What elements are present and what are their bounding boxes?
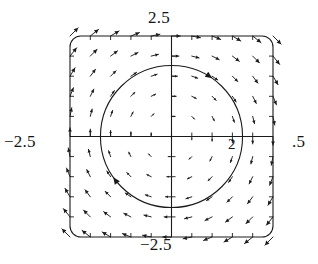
figure-container: 2.5 −2.5 −2.5 .5 2	[0, 0, 318, 264]
axis-label-left: −2.5	[4, 132, 36, 152]
axis-tick-label-x-2: 2	[228, 136, 236, 153]
axis-label-top: 2.5	[148, 8, 170, 28]
phase-portrait-plot	[0, 0, 318, 264]
axis-label-bottom: −2.5	[140, 235, 172, 255]
axis-label-right: .5	[292, 132, 305, 152]
